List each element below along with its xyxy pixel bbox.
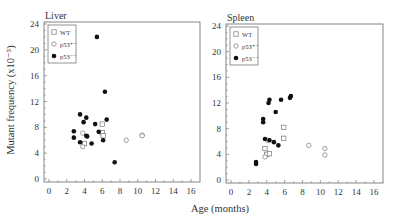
y-tick-label: 4 bbox=[217, 149, 222, 159]
x-tick-label: 8 bbox=[118, 186, 123, 196]
marker-null bbox=[104, 117, 109, 122]
marker-null bbox=[276, 143, 281, 148]
y-tick-label: 8 bbox=[217, 124, 222, 134]
x-axis-label: Age (months) bbox=[191, 203, 250, 215]
legend-label: p53⁺⁻ bbox=[60, 41, 77, 48]
x-tick-label: 10 bbox=[133, 186, 143, 196]
x-tick-label: 14 bbox=[352, 187, 362, 197]
marker-het bbox=[234, 44, 238, 48]
marker-null bbox=[272, 140, 277, 145]
y-tick-label: 16 bbox=[212, 72, 222, 82]
y-tick-label: 20 bbox=[30, 45, 40, 55]
y-tick-label: 24 bbox=[212, 21, 222, 31]
marker-wt bbox=[263, 146, 267, 150]
x-tick-label: 4 bbox=[82, 186, 87, 196]
x-tick-label: 6 bbox=[100, 186, 105, 196]
marker-het bbox=[323, 153, 327, 157]
y-tick-label: 0 bbox=[35, 174, 40, 184]
marker-null bbox=[93, 122, 98, 127]
y-tick-label: 16 bbox=[30, 71, 40, 81]
marker-het bbox=[81, 145, 85, 149]
y-tick-label: 8 bbox=[35, 122, 40, 132]
legend-label: WT bbox=[242, 31, 252, 38]
marker-null bbox=[112, 160, 117, 165]
legend-label: p53⁺⁻ bbox=[242, 43, 259, 50]
marker-null bbox=[72, 135, 77, 140]
marker-null bbox=[279, 97, 284, 102]
marker-wt bbox=[101, 134, 105, 138]
marker-null bbox=[261, 120, 266, 125]
x-tick-label: 16 bbox=[370, 187, 380, 197]
marker-het bbox=[263, 155, 267, 159]
marker-null bbox=[96, 130, 101, 135]
marker-wt bbox=[282, 136, 286, 140]
x-tick-label: 0 bbox=[47, 186, 52, 196]
legend-label: p53⁻⁻ bbox=[242, 55, 259, 62]
x-tick-label: 16 bbox=[187, 186, 197, 196]
marker-null bbox=[84, 115, 89, 120]
x-tick-label: 4 bbox=[265, 187, 270, 197]
liver-panel: Liver024681012141604812162024WTp53⁺⁻p53⁻… bbox=[30, 10, 200, 196]
marker-null bbox=[89, 141, 94, 146]
x-tick-label: 0 bbox=[229, 187, 234, 197]
x-tick-label: 2 bbox=[247, 187, 252, 197]
marker-null bbox=[234, 56, 239, 61]
marker-het bbox=[140, 134, 144, 138]
spleen-panel: Spleen024681012141604812162024WTp53⁺⁻p53… bbox=[212, 12, 383, 197]
x-tick-label: 12 bbox=[151, 186, 160, 196]
y-axis-label: Mutant frequency (x10⁻⁵) bbox=[5, 45, 17, 155]
panel-title: Spleen bbox=[227, 12, 254, 23]
legend-label: p53⁻⁻ bbox=[60, 53, 77, 60]
x-tick-label: 8 bbox=[300, 187, 305, 197]
marker-null bbox=[289, 94, 294, 99]
marker-null bbox=[273, 110, 278, 115]
marker-wt bbox=[267, 151, 271, 155]
marker-het bbox=[307, 143, 311, 147]
marker-null bbox=[95, 35, 100, 40]
marker-null bbox=[85, 134, 90, 139]
marker-null bbox=[267, 97, 272, 102]
marker-null bbox=[78, 112, 83, 117]
marker-null bbox=[263, 137, 268, 142]
y-tick-label: 20 bbox=[212, 47, 222, 57]
x-tick-label: 12 bbox=[334, 187, 343, 197]
y-tick-label: 4 bbox=[35, 148, 40, 158]
marker-wt bbox=[52, 30, 56, 34]
marker-wt bbox=[100, 122, 104, 126]
chart-figure: Liver024681012141604812162024WTp53⁺⁻p53⁻… bbox=[0, 0, 394, 224]
x-tick-label: 10 bbox=[316, 187, 326, 197]
panel-title: Liver bbox=[45, 10, 67, 21]
marker-null bbox=[81, 120, 86, 125]
marker-het bbox=[52, 42, 56, 46]
x-tick-label: 6 bbox=[282, 187, 287, 197]
marker-het bbox=[323, 146, 327, 150]
marker-null bbox=[72, 129, 77, 134]
marker-null bbox=[267, 138, 272, 143]
legend-label: WT bbox=[60, 29, 70, 36]
marker-het bbox=[124, 138, 128, 142]
marker-wt bbox=[234, 32, 238, 36]
y-tick-label: 12 bbox=[212, 98, 221, 108]
y-tick-label: 0 bbox=[217, 175, 222, 185]
marker-wt bbox=[282, 125, 286, 129]
x-tick-label: 2 bbox=[65, 186, 70, 196]
marker-null bbox=[103, 90, 108, 95]
marker-null bbox=[52, 54, 57, 59]
y-tick-label: 12 bbox=[30, 97, 39, 107]
marker-null bbox=[254, 162, 259, 167]
marker-null bbox=[101, 138, 106, 143]
y-tick-label: 24 bbox=[30, 19, 40, 29]
x-tick-label: 14 bbox=[169, 186, 179, 196]
marker-null bbox=[78, 140, 83, 145]
